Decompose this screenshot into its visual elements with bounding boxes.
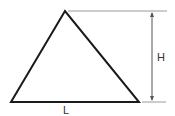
triangle-diagram: H L bbox=[0, 0, 175, 116]
triangle-shape bbox=[11, 11, 139, 102]
base-label: L bbox=[63, 104, 69, 116]
height-arrow-top-icon bbox=[150, 12, 154, 17]
height-label: H bbox=[157, 51, 165, 63]
height-arrow-bottom-icon bbox=[150, 96, 154, 101]
